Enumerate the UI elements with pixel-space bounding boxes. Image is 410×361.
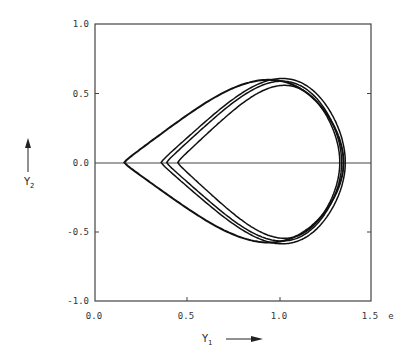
y-tick-label: 0.5 bbox=[73, 89, 89, 99]
x-axis-label: Y1 bbox=[201, 333, 263, 347]
y-tick-label: 0.0 bbox=[73, 158, 89, 168]
y-axis-label-sub: 2 bbox=[30, 182, 34, 190]
x-axis-label-sub: 1 bbox=[208, 339, 212, 347]
arrow-right-icon bbox=[251, 336, 263, 342]
x-tick-label: 0.5 bbox=[178, 311, 194, 321]
x-tick-label: 1.0 bbox=[271, 311, 287, 321]
trajectory-loop-3 bbox=[167, 81, 342, 241]
y-tick-label: -0.5 bbox=[67, 227, 89, 237]
y-tick-label: -1.0 bbox=[67, 296, 89, 306]
y-axis-label: Y2 bbox=[23, 138, 35, 190]
svg-text:Y2: Y2 bbox=[23, 176, 35, 190]
svg-text:Y1: Y1 bbox=[201, 333, 213, 347]
x-tick-label: 1.5 bbox=[362, 311, 378, 321]
trajectory-loop-4 bbox=[178, 85, 340, 238]
x-extra-label: e bbox=[388, 311, 393, 321]
trajectory-loops bbox=[124, 78, 345, 243]
phase-plane-chart: 1.0 0.5 0.0 -0.5 -1.0 0.0 0.5 1.0 1.5 e … bbox=[0, 0, 410, 361]
trajectory-loop-outer bbox=[124, 80, 343, 243]
arrow-up-icon bbox=[25, 138, 31, 148]
y-tick-label: 1.0 bbox=[73, 19, 89, 29]
x-tick-label: 0.0 bbox=[86, 311, 102, 321]
